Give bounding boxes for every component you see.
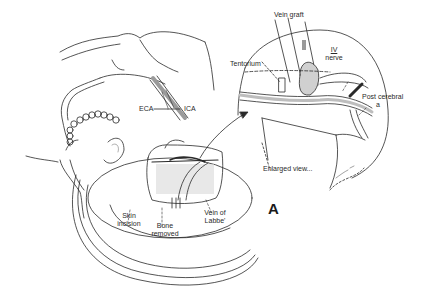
label-tentorium: Tentorium	[230, 60, 261, 68]
enlarged-view	[238, 18, 388, 190]
label-vein-graft: Vein graft	[274, 11, 304, 19]
panel-letter: A	[268, 201, 279, 217]
teeth	[67, 111, 119, 145]
label-vein-of: Vein of	[200, 209, 230, 217]
skull-outline	[26, 74, 165, 218]
craniotomy-window	[147, 140, 223, 208]
label-skin: Skin	[112, 212, 146, 220]
label-incision: incision	[112, 220, 146, 228]
label-eca: ECA	[139, 105, 153, 113]
label-iv-nerve-numeral: IV	[322, 46, 346, 54]
arrow-to-enlarged-view	[200, 112, 248, 158]
label-removed: removed	[148, 230, 182, 238]
head-outline	[60, 32, 214, 90]
label-labbe: Labbe'	[200, 217, 230, 225]
line-art	[0, 0, 431, 307]
label-bone: Bone	[148, 222, 182, 230]
label-post-cerebral-a: a	[376, 101, 380, 109]
label-iv-nerve-word: nerve	[320, 54, 348, 62]
label-enlarged-view: Enlarged view...	[263, 165, 312, 173]
label-post-cerebral: Post cerebral	[362, 93, 403, 101]
label-ica: ICA	[184, 105, 196, 113]
surgical-illustration: Vein graft Tentorium IV nerve Post cereb…	[0, 0, 431, 307]
carotid-vessels	[150, 76, 188, 120]
